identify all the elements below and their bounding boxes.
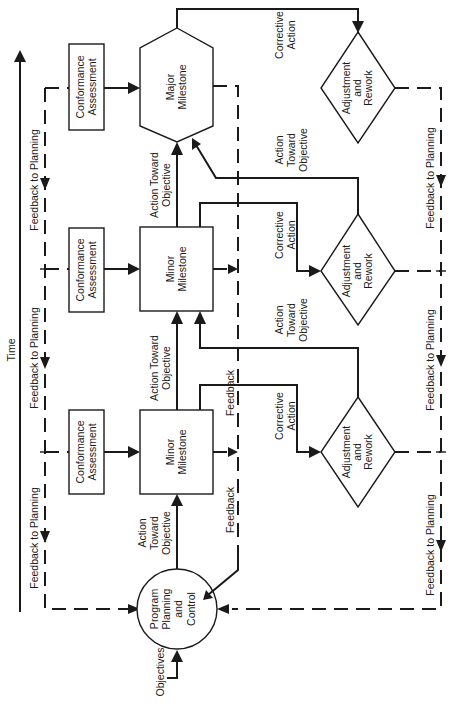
arrow-up-icon	[171, 142, 183, 155]
svg-text:Objective: Objective	[160, 511, 172, 555]
minor-milestone-2: Minor Milestone	[140, 227, 213, 311]
svg-text:Rework: Rework	[362, 69, 374, 105]
svg-text:Milestone: Milestone	[176, 64, 188, 109]
arrow-right-icon	[309, 446, 321, 458]
svg-text:Feedback: Feedback	[224, 486, 236, 533]
svg-text:Minor: Minor	[164, 255, 176, 282]
svg-text:Feedback to Planning: Feedback to Planning	[424, 127, 436, 229]
svg-text:Action Toward: Action Toward	[148, 335, 160, 401]
svg-text:Toward: Toward	[148, 516, 160, 550]
feedback-to-planning-label: Feedback to Planning	[28, 307, 40, 409]
svg-text:and: and	[172, 600, 184, 618]
svg-text:Conformance: Conformance	[74, 238, 86, 301]
right-feedback-line: Feedback to Planning Feedback to Plannin…	[217, 88, 446, 614]
conformance-assessment-3: Conformance Assessment	[69, 44, 140, 130]
program-planning-and-control: Program Planning and Control	[137, 569, 217, 649]
svg-text:Action: Action	[285, 220, 297, 249]
feedback-to-planning-label: Feedback to Planning	[28, 487, 40, 589]
arrow-up-icon	[171, 311, 183, 324]
arrow-right-icon	[128, 82, 140, 94]
adjustment-rework-1: Adjustment and Rework	[321, 397, 395, 507]
svg-text:Objective: Objective	[297, 298, 309, 342]
middle-feedback-line: Feedback Feedback	[203, 86, 238, 600]
arrow-right-icon	[228, 447, 238, 457]
arrow-down-icon	[436, 355, 446, 367]
svg-text:Toward: Toward	[285, 133, 297, 167]
svg-text:Feedback to Planning: Feedback to Planning	[424, 309, 436, 411]
arrow-up-left-icon	[192, 138, 201, 150]
arrow-up-icon	[14, 50, 26, 62]
svg-text:Objectives: Objectives	[154, 647, 166, 696]
left-feedback-line: Feedback to Planning Feedback to Plannin…	[28, 88, 140, 614]
svg-text:Action: Action	[273, 305, 285, 334]
arrow-down-icon	[352, 21, 364, 33]
svg-text:Action Toward: Action Toward	[148, 152, 160, 218]
objectives-input: Objectives	[154, 647, 183, 696]
arrow-down-icon	[436, 540, 446, 552]
svg-text:Feedback to Planning: Feedback to Planning	[424, 494, 436, 596]
svg-text:Objective: Objective	[160, 346, 172, 390]
rework-action-1: Action Toward Objective	[194, 298, 358, 397]
arrow-right-icon	[128, 446, 140, 458]
time-label: Time	[5, 338, 17, 361]
arrow-right-icon	[128, 263, 140, 275]
svg-text:Corrective: Corrective	[273, 11, 285, 59]
time-axis: Time	[5, 50, 26, 612]
svg-text:Rework: Rework	[362, 252, 374, 288]
corrective-action-2: Corrective Action	[200, 203, 321, 277]
corrective-action-1: Corrective Action	[200, 385, 321, 458]
adjustment-rework-2: Adjustment and Rework	[321, 214, 395, 325]
arrow-down-icon	[40, 531, 50, 543]
major-milestone: Major Milestone	[140, 28, 213, 142]
conformance-assessment-1: Conformance Assessment	[69, 410, 140, 494]
arrow-down-icon	[40, 357, 50, 369]
svg-text:Objective: Objective	[297, 128, 309, 172]
svg-text:Corrective: Corrective	[273, 392, 285, 440]
svg-text:Action: Action	[285, 401, 297, 430]
minor-milestone-1: Minor Milestone	[140, 410, 213, 494]
feedback-to-planning-label: Feedback to Planning	[28, 129, 40, 231]
svg-text:Assessment: Assessment	[86, 58, 98, 115]
conformance-assessment-2: Conformance Assessment	[69, 228, 140, 312]
arrow-down-icon	[40, 178, 50, 190]
svg-text:Toward: Toward	[285, 303, 297, 337]
svg-text:Major: Major	[164, 73, 176, 100]
svg-text:Action: Action	[136, 518, 148, 547]
svg-text:Milestone: Milestone	[176, 429, 188, 474]
arrow-left-icon	[217, 604, 229, 614]
arrow-up-icon	[171, 494, 183, 506]
svg-text:Action: Action	[273, 135, 285, 164]
svg-text:Conformance: Conformance	[74, 55, 86, 118]
svg-text:Program: Program	[148, 589, 160, 630]
svg-text:Milestone: Milestone	[176, 246, 188, 291]
arrow-right-icon	[228, 264, 238, 274]
svg-text:Minor: Minor	[164, 438, 176, 465]
svg-text:Conformance: Conformance	[74, 420, 86, 483]
svg-text:Rework: Rework	[362, 433, 374, 469]
rework-action-2: Action Toward Objective	[192, 128, 358, 214]
svg-text:Objective: Objective	[160, 163, 172, 207]
program-control-flow-diagram: Time Feedback to Planning Feedback to Pl…	[0, 0, 454, 715]
arrow-down-icon	[436, 175, 446, 187]
arrow-up-icon	[194, 311, 206, 324]
adjustment-rework-3: Adjustment and Rework	[321, 32, 395, 143]
svg-text:Control: Control	[185, 592, 197, 626]
svg-text:Assessment: Assessment	[86, 241, 98, 298]
svg-text:Feedback: Feedback	[224, 369, 236, 416]
svg-text:Planning: Planning	[160, 588, 172, 629]
svg-text:Action: Action	[285, 20, 297, 49]
arrow-up-icon	[171, 650, 183, 662]
svg-text:Corrective: Corrective	[273, 211, 285, 259]
arrow-right-icon	[309, 265, 321, 277]
svg-text:Assessment: Assessment	[86, 423, 98, 480]
central-action-spine: Action Toward Objective Action Toward Ob…	[136, 142, 183, 569]
